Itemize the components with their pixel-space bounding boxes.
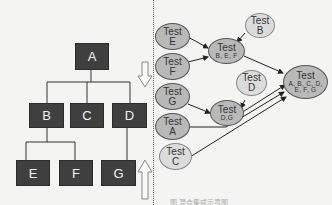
figure-caption: 图 混合集成示意图 bbox=[170, 197, 228, 205]
node-sublabel: E bbox=[169, 37, 176, 47]
module-c-label: C bbox=[82, 108, 91, 123]
module-f: F bbox=[59, 160, 93, 186]
node-test-dg: Test D,G bbox=[210, 100, 244, 126]
module-e-label: E bbox=[29, 166, 38, 181]
node-sublabel: C bbox=[172, 157, 179, 167]
module-c: C bbox=[70, 103, 104, 128]
node-sublabel: B bbox=[257, 26, 264, 36]
node-test-all: Test A, B, C, D, E, F, G bbox=[283, 65, 328, 99]
module-e: E bbox=[16, 160, 50, 186]
down-arrow-icon bbox=[138, 62, 152, 87]
integration-diagram: A B C D E F G Test E Test F Test G Test … bbox=[0, 0, 332, 205]
module-g: G bbox=[101, 160, 136, 186]
node-sublabel: G bbox=[169, 97, 177, 107]
node-sublabel: F bbox=[169, 67, 175, 77]
module-g-label: G bbox=[113, 166, 123, 181]
node-label: Test bbox=[163, 87, 181, 97]
node-sublabel: D,G bbox=[221, 115, 233, 122]
node-sublabel: B, E, F bbox=[216, 53, 238, 60]
module-f-label: F bbox=[72, 166, 80, 181]
module-a-label: A bbox=[88, 49, 97, 64]
module-d-label: D bbox=[125, 108, 134, 123]
node-sublabel: D bbox=[248, 83, 255, 93]
node-label: Test bbox=[163, 57, 181, 67]
module-a: A bbox=[75, 43, 109, 70]
node-sublabel: A bbox=[169, 127, 176, 137]
module-b-label: B bbox=[42, 108, 51, 123]
module-d: D bbox=[112, 103, 147, 128]
node-test-b: Test B bbox=[245, 13, 275, 38]
dotted-divider bbox=[153, 0, 154, 205]
node-test-bef: Test B, E, F bbox=[208, 38, 245, 64]
node-test-c: Test C bbox=[159, 143, 192, 170]
up-arrow-icon bbox=[138, 160, 152, 199]
node-label: Test bbox=[296, 71, 314, 81]
node-test-e: Test E bbox=[155, 23, 190, 50]
node-label: Test bbox=[163, 117, 181, 127]
node-label: Test bbox=[251, 16, 269, 26]
node-label: Test bbox=[166, 147, 184, 157]
node-test-d: Test D bbox=[236, 70, 267, 96]
node-sublabel-2: E, F, G bbox=[295, 87, 317, 94]
node-test-g: Test G bbox=[155, 83, 190, 110]
node-test-f: Test F bbox=[155, 53, 190, 80]
module-b: B bbox=[29, 103, 64, 128]
node-test-a: Test A bbox=[155, 113, 190, 140]
node-label: Test bbox=[163, 27, 181, 37]
